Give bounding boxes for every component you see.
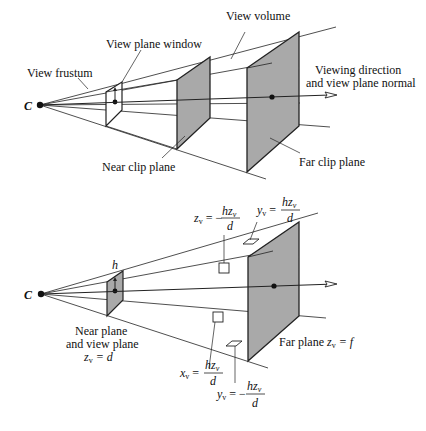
near-plane-label: Near plane <box>75 324 127 338</box>
equation-yv-bottom: yv = − hzv d <box>216 379 265 410</box>
viewing-direction-arrow-icon <box>325 92 337 98</box>
svg-text:xv =: xv = <box>179 366 199 381</box>
viewing-direction-label: Viewing direction <box>315 63 401 77</box>
near-plane-equation: zv = d <box>83 350 114 365</box>
near-clip-plane-label: Near clip plane <box>102 160 175 174</box>
far-clip-plane-label: Far clip plane <box>299 155 365 169</box>
viewing-direction-label-2: and view plane normal <box>306 76 416 90</box>
svg-text:d: d <box>227 219 234 233</box>
yv-top-sample-rhombus <box>243 239 259 244</box>
svg-text:d: d <box>287 211 294 225</box>
far-plane-center-dot <box>269 94 274 99</box>
center-label: C <box>24 99 33 113</box>
svg-text:hzv: hzv <box>205 358 220 373</box>
yv-bottom-sample-rhombus <box>226 341 242 346</box>
svg-text:yv = −: yv = − <box>216 387 246 402</box>
svg-text:d: d <box>210 374 217 388</box>
near-clip-plane <box>177 57 210 149</box>
near-plane-label-2: and view plane <box>66 337 139 351</box>
far-clip-plane <box>247 32 299 172</box>
view-volume-label: View volume <box>226 9 290 23</box>
xv-sample-square <box>213 312 223 322</box>
center-of-projection-dot <box>37 102 43 108</box>
svg-text:d: d <box>252 396 259 410</box>
svg-text:hzv: hzv <box>247 379 262 394</box>
center-of-projection-dot <box>38 291 44 297</box>
svg-text:hzv: hzv <box>222 204 237 219</box>
equation-xv: xv = hzv d <box>179 358 223 388</box>
far-plane-center-dot <box>271 283 276 288</box>
view-plane-window-label: View plane window <box>106 37 202 51</box>
view-frustum-label: View frustum <box>27 66 93 80</box>
bottom-diagram <box>38 213 337 383</box>
svg-text:hzv: hzv <box>282 195 297 210</box>
svg-text:yv =: yv = <box>256 203 276 218</box>
equation-zv: zv = − hzv d <box>193 204 240 233</box>
far-plane-label: Far plane zv = f <box>279 335 355 350</box>
viewing-direction-arrow-icon <box>325 281 337 287</box>
h-label: h <box>112 258 118 272</box>
view-frustum-diagram: C View frustum View plane window View vo… <box>0 0 426 431</box>
zv-sample-square <box>219 263 229 273</box>
center-label: C <box>24 288 33 302</box>
svg-text:zv = −: zv = − <box>193 211 222 226</box>
